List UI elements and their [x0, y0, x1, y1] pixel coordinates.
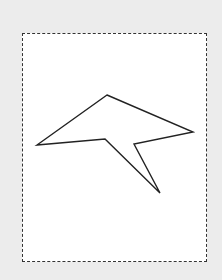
arrow-polygon: [37, 95, 193, 193]
polygon-shape: [0, 0, 222, 280]
